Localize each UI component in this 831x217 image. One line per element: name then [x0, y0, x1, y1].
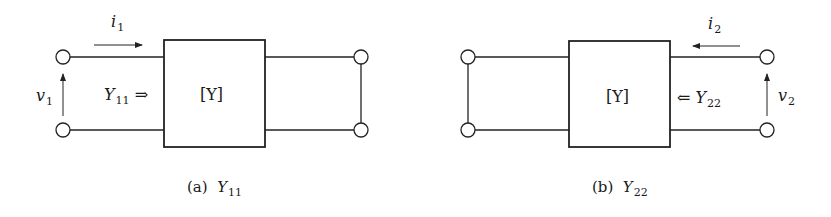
- terminal-2b: [354, 123, 368, 137]
- voltage-label-v2: v2: [778, 88, 795, 104]
- terminal-1a: [56, 50, 70, 64]
- terminal-1b: [56, 123, 70, 137]
- matrix-label-b: [Y]: [606, 89, 629, 105]
- admittance-label-y11: Y11 ⇒: [104, 87, 148, 103]
- terminal-1a: [461, 50, 475, 64]
- current-label-i2: i2: [708, 16, 721, 32]
- voltage-label-v1: v1: [36, 88, 53, 104]
- admittance-label-y22: ⇐ Y22: [677, 90, 721, 106]
- terminal-1b: [461, 123, 475, 137]
- caption-b: (b) Y22: [592, 180, 648, 195]
- current-label-i1: i1: [111, 14, 124, 30]
- caption-a: (a) Y11: [187, 180, 242, 195]
- terminal-2a: [354, 50, 368, 64]
- terminal-2b: [760, 123, 774, 137]
- matrix-label-a: [Y]: [200, 87, 223, 103]
- terminal-2a: [760, 50, 774, 64]
